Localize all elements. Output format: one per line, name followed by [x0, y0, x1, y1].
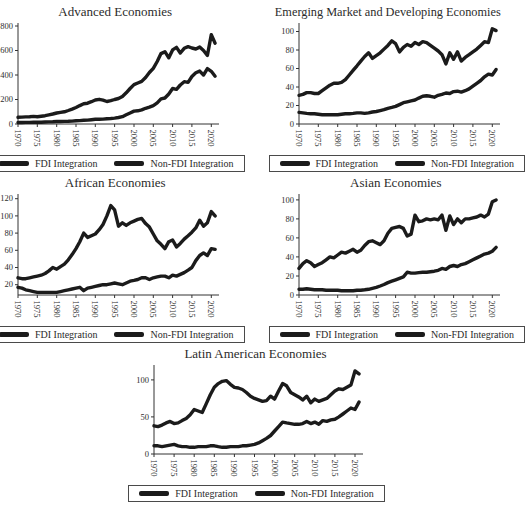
svg-text:2000: 2000	[129, 301, 139, 318]
panel-advanced-economies: Advanced Economies 020040060080019701975…	[0, 4, 245, 172]
svg-text:100: 100	[281, 26, 294, 36]
svg-text:2005: 2005	[149, 130, 159, 147]
svg-text:2020: 2020	[487, 301, 497, 318]
svg-text:0: 0	[290, 290, 294, 300]
legend-item-nonfdi: Non-FDI Integration	[255, 488, 374, 499]
svg-text:2020: 2020	[207, 130, 217, 147]
svg-text:1995: 1995	[390, 130, 400, 147]
svg-text:1985: 1985	[352, 301, 362, 318]
svg-text:1990: 1990	[91, 301, 101, 318]
fdi-line-swatch	[280, 161, 310, 166]
chart-title-emerging: Emerging Market and Developing Economies	[269, 4, 501, 20]
legend-asian: FDI Integration Non-FDI Integration	[269, 326, 525, 343]
svg-text:120: 120	[0, 193, 13, 203]
svg-text:50: 50	[141, 412, 150, 422]
figure: Advanced Economies 020040060080019701975…	[0, 0, 489, 502]
series-fdi-integration	[299, 70, 496, 115]
series-non-fdi-integration	[299, 29, 496, 96]
svg-text:1990: 1990	[371, 301, 381, 318]
asian-economies-chart: 0204060801001970197519801985199019952000…	[263, 191, 507, 325]
legend-item-nonfdi: Non-FDI Integration	[395, 329, 514, 340]
legend-label-nonfdi: Non-FDI Integration	[431, 158, 514, 169]
svg-text:2015: 2015	[468, 301, 478, 318]
svg-text:2015: 2015	[468, 130, 478, 147]
legend-label-fdi: FDI Integration	[316, 158, 379, 169]
svg-text:60: 60	[285, 233, 294, 243]
legend-emerging: FDI Integration Non-FDI Integration	[269, 155, 525, 172]
svg-text:2020: 2020	[350, 460, 360, 477]
svg-text:20: 20	[285, 100, 294, 110]
svg-text:1970: 1970	[294, 130, 304, 147]
svg-text:2015: 2015	[187, 301, 197, 318]
series-non-fdi-integration	[18, 35, 215, 118]
svg-text:1995: 1995	[250, 460, 260, 477]
svg-text:80: 80	[285, 214, 294, 224]
svg-text:1980: 1980	[52, 130, 62, 147]
svg-text:2000: 2000	[129, 130, 139, 147]
svg-text:40: 40	[285, 82, 294, 92]
svg-text:2015: 2015	[330, 460, 340, 477]
svg-text:20: 20	[285, 271, 294, 281]
svg-text:40: 40	[285, 252, 294, 262]
svg-text:600: 600	[0, 45, 13, 55]
legend-label-nonfdi: Non-FDI Integration	[431, 329, 514, 340]
fdi-line-swatch	[280, 332, 310, 337]
svg-text:2000: 2000	[410, 301, 420, 318]
svg-text:1975: 1975	[33, 301, 43, 318]
chart-title-african: African Economies	[43, 175, 166, 191]
svg-text:2010: 2010	[310, 460, 320, 477]
svg-text:2020: 2020	[487, 130, 497, 147]
svg-text:2010: 2010	[168, 301, 178, 318]
legend-label-fdi: FDI Integration	[175, 488, 238, 499]
nonfdi-line-swatch	[114, 161, 144, 166]
fdi-line-swatch	[139, 491, 169, 496]
panel-latin-american-economies: Latin American Economies 050100197019751…	[104, 346, 385, 502]
svg-text:1970: 1970	[13, 130, 23, 147]
svg-text:100: 100	[0, 211, 13, 221]
panel-african-economies: African Economies 2040608010012019701975…	[0, 175, 245, 343]
svg-text:100: 100	[137, 375, 150, 385]
svg-text:60: 60	[285, 63, 294, 73]
legend-item-nonfdi: Non-FDI Integration	[114, 329, 233, 340]
svg-text:800: 800	[0, 21, 13, 31]
svg-text:2020: 2020	[207, 301, 217, 318]
svg-text:1995: 1995	[110, 301, 120, 318]
svg-text:2015: 2015	[187, 130, 197, 147]
svg-text:1980: 1980	[190, 460, 200, 477]
svg-text:1980: 1980	[332, 130, 342, 147]
svg-text:1975: 1975	[313, 301, 323, 318]
series-non-fdi-integration	[154, 371, 359, 427]
svg-text:60: 60	[5, 245, 14, 255]
legend-label-nonfdi: Non-FDI Integration	[150, 158, 233, 169]
svg-text:1980: 1980	[332, 301, 342, 318]
svg-text:1995: 1995	[390, 301, 400, 318]
svg-text:2010: 2010	[448, 130, 458, 147]
svg-text:200: 200	[0, 94, 13, 104]
svg-text:80: 80	[285, 45, 294, 55]
svg-text:40: 40	[5, 262, 14, 272]
advanced-economies-chart: 0200400600800197019751980198519901995200…	[0, 20, 226, 154]
panel-emerging-economies: Emerging Market and Developing Economies…	[245, 4, 525, 172]
series-non-fdi-integration	[299, 200, 496, 269]
svg-text:1970: 1970	[294, 301, 304, 318]
svg-text:2000: 2000	[270, 460, 280, 477]
chart-title-latin-american: Latin American Economies	[162, 346, 326, 362]
emerging-economies-chart: 0204060801001970197519801985199019952000…	[263, 20, 507, 154]
svg-text:2005: 2005	[290, 460, 300, 477]
svg-text:0: 0	[145, 449, 149, 459]
legend-label-nonfdi: Non-FDI Integration	[291, 488, 374, 499]
nonfdi-line-swatch	[255, 491, 285, 496]
legend-latin-american: FDI Integration Non-FDI Integration	[128, 485, 385, 502]
svg-text:1990: 1990	[91, 130, 101, 147]
svg-text:2005: 2005	[429, 301, 439, 318]
svg-text:20: 20	[5, 279, 14, 289]
svg-text:1975: 1975	[170, 460, 180, 477]
panel-asian-economies: Asian Economies 020406080100197019751980…	[245, 175, 525, 343]
legend-item-fdi: FDI Integration	[280, 158, 379, 169]
svg-text:1975: 1975	[313, 130, 323, 147]
svg-text:2005: 2005	[429, 130, 439, 147]
svg-text:0: 0	[9, 119, 13, 129]
row-1: Advanced Economies 020040060080019701975…	[0, 4, 525, 172]
svg-text:2010: 2010	[448, 301, 458, 318]
svg-text:80: 80	[5, 228, 14, 238]
